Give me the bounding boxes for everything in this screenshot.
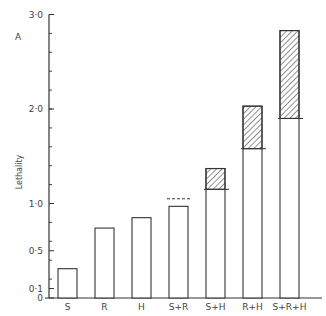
y-tick-label: 0 <box>37 293 43 303</box>
y-tick-label: 3·0 <box>29 10 44 20</box>
bar <box>132 218 151 298</box>
x-tick-label: R+H <box>242 302 263 312</box>
bar <box>169 206 188 298</box>
x-tick-label: H <box>138 302 145 312</box>
y-tick-label: 0·1 <box>29 284 43 294</box>
synergy-hatch <box>243 106 262 149</box>
x-tick-label: S <box>65 302 71 312</box>
synergy-hatch <box>280 31 299 119</box>
lethality-bar-chart: 00·10·51·02·03·0 SRHS+RS+HR+HS+R+H Letha… <box>0 0 326 316</box>
x-axis-labels: SRHS+RS+HR+HS+R+H <box>65 302 307 312</box>
y-axis-label: Lethality <box>15 154 24 189</box>
synergy-hatch <box>206 169 225 190</box>
y-tick-label: 1·0 <box>29 199 44 209</box>
x-tick-label: R <box>101 302 107 312</box>
bars <box>58 31 303 298</box>
x-tick-label: S+R+H <box>273 302 307 312</box>
x-tick-label: S+R <box>169 302 189 312</box>
y-tick-label: 2·0 <box>29 104 44 114</box>
panel-annotation: A <box>15 32 22 42</box>
x-tick-label: S+H <box>205 302 225 312</box>
y-tick-label: 0·5 <box>29 246 43 256</box>
bar <box>58 269 77 298</box>
bar <box>95 228 114 298</box>
